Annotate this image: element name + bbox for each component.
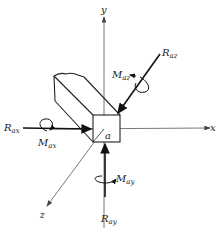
- free-body-diagram: y x z a Rax Max R: [0, 0, 220, 229]
- z-axis-label: z: [39, 210, 45, 220]
- force-r-az-label: Raz: [161, 47, 178, 60]
- force-r-az: [118, 54, 160, 113]
- moment-m-az-label: Maz: [111, 69, 130, 82]
- point-a-label: a: [105, 130, 111, 141]
- force-r-ax-label: Rax: [3, 122, 20, 135]
- moment-m-ax: [40, 119, 53, 131]
- moment-m-ay-label: May: [115, 173, 135, 186]
- x-axis-label: x: [210, 122, 216, 133]
- y-axis-label: y: [100, 4, 107, 15]
- force-r-ax: [23, 128, 91, 129]
- moment-m-ax-label: Max: [37, 137, 56, 150]
- force-r-ay-label: Ray: [100, 213, 118, 226]
